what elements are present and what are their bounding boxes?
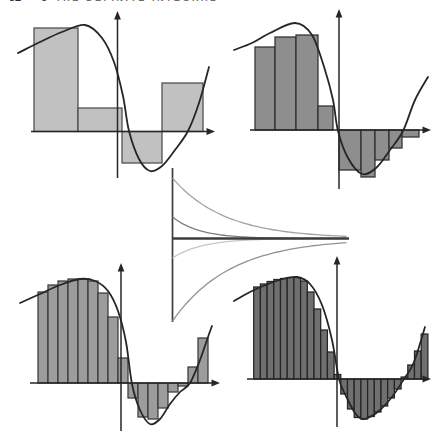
riemann-bar [318, 106, 333, 130]
riemann-bar [158, 383, 168, 408]
x-axis-arrowhead-icon [207, 128, 216, 135]
riemann-bar [255, 47, 275, 130]
y-axis-arrowhead-icon [114, 11, 121, 20]
riemann-bar [38, 292, 48, 383]
riemann-bar [402, 130, 419, 137]
riemann-bar [321, 330, 328, 379]
riemann-bar [296, 35, 318, 130]
riemann-bar [260, 284, 267, 379]
riemann-bar [58, 281, 68, 383]
riemann-bar [368, 379, 375, 417]
riemann-bar [34, 28, 78, 132]
y-axis-arrowhead-icon [118, 263, 125, 272]
riemann-bar [374, 379, 381, 412]
riemann-bar [122, 132, 162, 164]
riemann-panel-finest [234, 256, 431, 427]
textbook-figure-page: 323THE DEFINITE INTEGRAL [0, 0, 444, 448]
riemann-bars [254, 278, 428, 420]
riemann-bars [34, 28, 203, 163]
riemann-bar [274, 280, 281, 380]
riemann-bar [108, 317, 118, 383]
riemann-bar [307, 292, 314, 379]
riemann-bar [98, 293, 108, 383]
y-axis-arrowhead-icon [336, 9, 343, 18]
riemann-bar [138, 383, 148, 417]
upper-outer-envelope [173, 178, 347, 236]
x-axis-arrowhead-icon [423, 127, 432, 134]
riemann-bar [48, 285, 58, 383]
riemann-bar [314, 309, 321, 379]
riemann-bar [361, 379, 368, 419]
figure-canvas [0, 0, 444, 448]
riemann-panel-medium [234, 9, 431, 189]
riemann-bar [294, 278, 301, 380]
riemann-bar [118, 358, 128, 383]
riemann-bar [287, 278, 294, 380]
riemann-panel-fine [20, 263, 220, 431]
x-axis-arrowhead-icon [212, 380, 221, 387]
riemann-bar [78, 279, 88, 383]
riemann-bars [255, 35, 419, 177]
lower-inner-envelope [173, 239, 347, 258]
riemann-bar [381, 379, 388, 406]
riemann-bar [301, 281, 308, 379]
riemann-bar [68, 279, 78, 383]
riemann-bar [88, 281, 98, 383]
riemann-bars [38, 279, 208, 419]
riemann-bar [327, 352, 334, 379]
y-axis-arrowhead-icon [334, 256, 341, 265]
riemann-bar [339, 130, 361, 170]
riemann-bar [78, 108, 122, 132]
riemann-bar [275, 37, 296, 130]
riemann-bar [267, 282, 274, 380]
riemann-bar [148, 383, 158, 419]
riemann-bar [421, 334, 428, 379]
riemann-bar [281, 279, 288, 380]
riemann-bar [254, 287, 261, 379]
riemann-bar [168, 383, 178, 392]
riemann-panel-coarse [18, 11, 215, 178]
riemann-bar [389, 130, 402, 148]
